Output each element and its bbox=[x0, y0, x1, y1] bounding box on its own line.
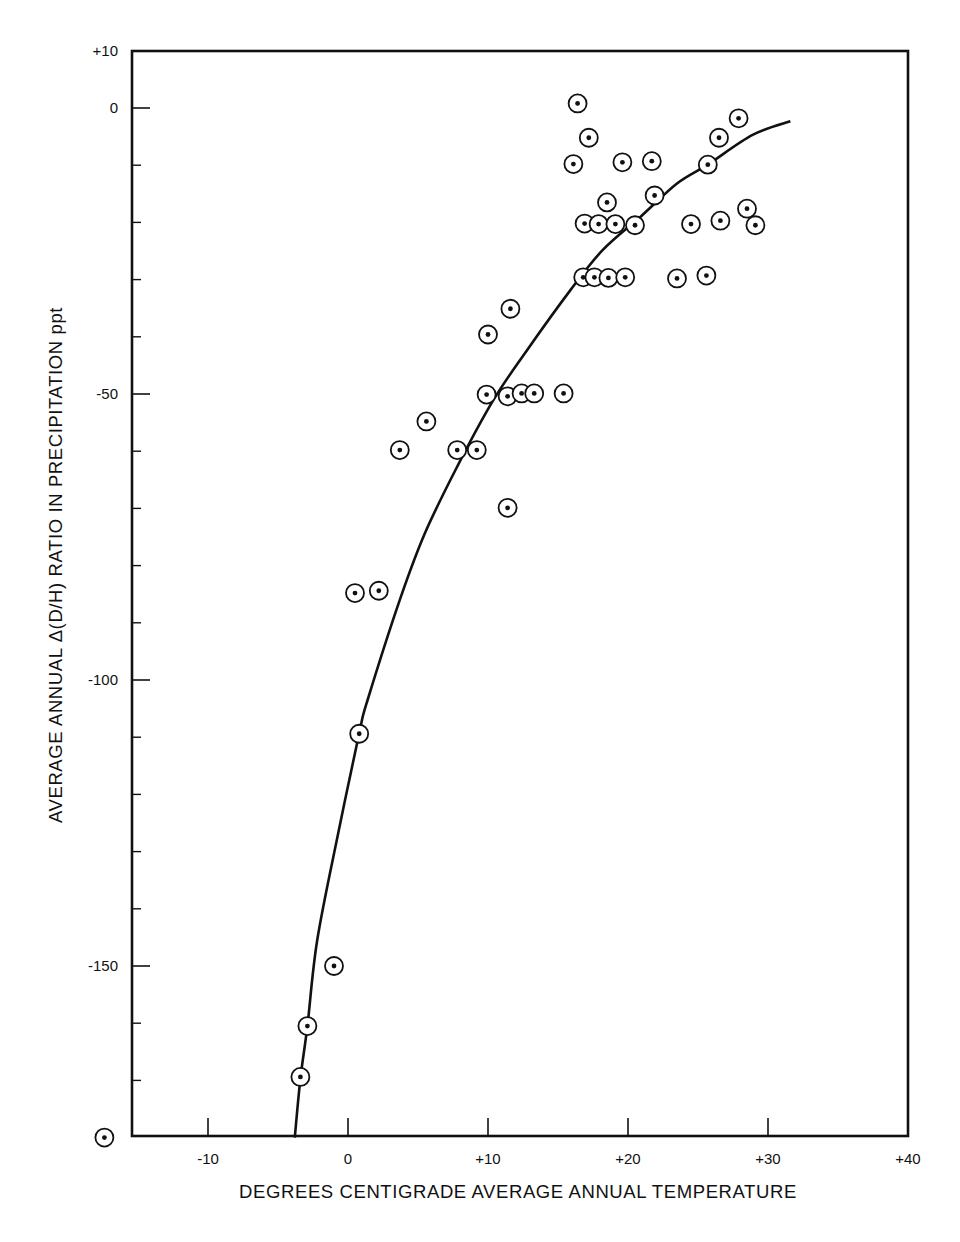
data-points bbox=[95, 94, 764, 1146]
data-point-marker bbox=[613, 153, 631, 171]
data-point-marker bbox=[668, 269, 686, 287]
data-point-marker bbox=[643, 152, 661, 170]
data-point-marker bbox=[746, 216, 764, 234]
x-tick-label: -10 bbox=[197, 1150, 219, 1167]
data-point-marker bbox=[598, 193, 616, 211]
data-point-marker bbox=[710, 129, 728, 147]
data-point-marker bbox=[590, 215, 608, 233]
data-point-marker bbox=[417, 412, 435, 430]
data-point-marker bbox=[580, 129, 598, 147]
y-axis-ticks: +100-50-100-150 bbox=[88, 42, 150, 1081]
y-tick-label: -150 bbox=[88, 957, 118, 974]
data-point-marker bbox=[479, 326, 497, 344]
data-point-marker bbox=[682, 215, 700, 233]
data-point-marker bbox=[616, 268, 634, 286]
x-tick-label: +40 bbox=[895, 1150, 920, 1167]
plot-border bbox=[132, 51, 908, 1136]
x-tick-label: +30 bbox=[755, 1150, 780, 1167]
data-point-marker bbox=[499, 499, 517, 517]
y-tick-label: -100 bbox=[88, 671, 118, 688]
data-point-marker bbox=[525, 384, 543, 402]
data-point-marker bbox=[730, 109, 748, 127]
x-tick-label: +20 bbox=[615, 1150, 640, 1167]
data-point-marker bbox=[448, 441, 466, 459]
data-point-marker bbox=[711, 212, 729, 230]
data-point-marker bbox=[599, 269, 617, 287]
data-point-marker bbox=[370, 582, 388, 600]
data-point-marker bbox=[699, 156, 717, 174]
data-point-marker bbox=[350, 725, 368, 743]
x-tick-label: 0 bbox=[344, 1150, 352, 1167]
data-point-marker bbox=[468, 441, 486, 459]
data-point-marker bbox=[555, 384, 573, 402]
data-point-marker bbox=[697, 267, 715, 285]
scatter-chart: -100+10+20+30+40 +100-50-100-150 DEGREES… bbox=[0, 0, 960, 1242]
plot-frame bbox=[132, 51, 908, 1136]
y-tick-label: 0 bbox=[110, 99, 118, 116]
data-point-marker bbox=[626, 216, 644, 234]
data-point-marker bbox=[501, 300, 519, 318]
data-point-marker bbox=[391, 441, 409, 459]
data-point-marker bbox=[564, 155, 582, 173]
y-axis-title: AVERAGE ANNUAL Δ(D/H) RATIO IN PRECIPITA… bbox=[45, 307, 66, 823]
y-tick-label: -50 bbox=[96, 385, 118, 402]
x-axis-title: DEGREES CENTIGRADE AVERAGE ANNUAL TEMPER… bbox=[239, 1181, 797, 1202]
data-point-marker bbox=[606, 215, 624, 233]
data-point-marker bbox=[95, 1129, 113, 1147]
x-axis-ticks: -100+10+20+30+40 bbox=[197, 1118, 921, 1167]
data-point-marker bbox=[738, 200, 756, 218]
data-point-marker bbox=[478, 386, 496, 404]
x-tick-label: +10 bbox=[475, 1150, 500, 1167]
data-point-marker bbox=[325, 957, 343, 975]
data-point-marker bbox=[291, 1068, 309, 1086]
data-point-marker bbox=[346, 584, 364, 602]
y-tick-label: +10 bbox=[93, 42, 118, 59]
data-point-marker bbox=[298, 1017, 316, 1035]
data-point-marker bbox=[646, 187, 664, 205]
data-point-marker bbox=[569, 94, 587, 112]
